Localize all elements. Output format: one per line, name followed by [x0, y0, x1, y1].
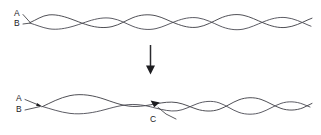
- top-panel-duplex: [30, 15, 312, 30]
- bottom-panel-duplex: [42, 95, 312, 115]
- point-c-arrowhead: [151, 101, 160, 108]
- bottom-label-a: A: [16, 93, 22, 103]
- figure-root: A B A B C: [0, 0, 321, 135]
- top-label-leaders: [23, 15, 30, 25]
- transition-arrow: [146, 45, 155, 75]
- top-strand-a: [30, 15, 312, 28]
- point-c-leader: [158, 107, 176, 119]
- bottom-label-leaders: [25, 100, 42, 111]
- bottom-label-c: C: [150, 114, 156, 124]
- top-label-b: B: [14, 18, 20, 28]
- bottom-strand-a: [42, 95, 312, 111]
- top-leader-a: [23, 15, 30, 23]
- bottom-leader-a-head: [36, 103, 42, 107]
- bottom-leader-b: [25, 107, 40, 110]
- transition-arrow-head: [146, 66, 155, 75]
- bottom-label-b: B: [16, 104, 22, 114]
- top-leader-b: [23, 23, 30, 24]
- diagram-canvas: A B A B C: [0, 0, 321, 135]
- top-label-a: A: [14, 8, 20, 18]
